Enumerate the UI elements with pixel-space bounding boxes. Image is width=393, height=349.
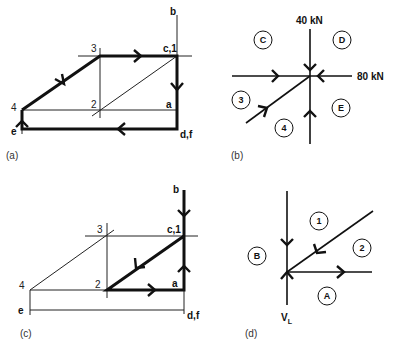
panel-b-joint-diagram: 40 kN 80 kN C D 3 E 4 (b) xyxy=(231,15,384,161)
region-2-label: 2 xyxy=(359,243,364,253)
label-2: 2 xyxy=(95,279,101,290)
region-d-label: D xyxy=(339,35,346,45)
region-4-label: 4 xyxy=(281,123,286,133)
label-3: 3 xyxy=(97,224,103,235)
label-4: 4 xyxy=(19,280,25,291)
label-3: 3 xyxy=(91,43,97,54)
member-diagonal xyxy=(246,76,310,123)
region-e-label: E xyxy=(338,103,344,113)
caption-a: (a) xyxy=(6,150,18,161)
label-b: b xyxy=(173,184,179,195)
region-c-label: C xyxy=(260,35,267,45)
region-1-label: 1 xyxy=(316,216,321,226)
label-a: a xyxy=(172,278,178,289)
load-40kn: 40 kN xyxy=(296,15,323,26)
reaction-sub: L xyxy=(288,318,293,325)
label-df: d,f xyxy=(180,129,193,140)
label-c1: c,1 xyxy=(163,43,177,54)
label-2: 2 xyxy=(91,99,97,110)
caption-b: (b) xyxy=(231,150,243,161)
label-e: e xyxy=(18,305,24,316)
line-2-c1 xyxy=(92,56,177,116)
label-df: d,f xyxy=(187,310,200,321)
region-a-label: A xyxy=(324,291,331,301)
label-c1: c,1 xyxy=(167,224,181,235)
label-4: 4 xyxy=(11,102,17,113)
panel-c-force-polygon: b c,1 3 2 4 a e d,f (c) xyxy=(18,184,200,339)
panel-a-force-polygon: b c,1 3 2 4 a e d,f (a) xyxy=(6,6,193,161)
label-a: a xyxy=(166,99,172,110)
arrow-4-3-icon xyxy=(55,74,64,84)
region-b-label: B xyxy=(254,251,261,261)
label-b: b xyxy=(170,6,176,17)
caption-d: (d) xyxy=(245,328,257,339)
load-80kn: 80 kN xyxy=(357,71,384,82)
panel-d-joint-diagram: 1 2 B A VL (d) xyxy=(245,191,373,339)
line-4-3 xyxy=(30,230,114,290)
caption-c: (c) xyxy=(20,328,32,339)
region-3-label: 3 xyxy=(238,95,243,105)
label-e: e xyxy=(11,126,17,137)
reaction-label: VL xyxy=(281,312,293,325)
truss-force-diagrams: b c,1 3 2 4 a e d,f (a) 40 kN 80 kN C D … xyxy=(0,0,393,349)
